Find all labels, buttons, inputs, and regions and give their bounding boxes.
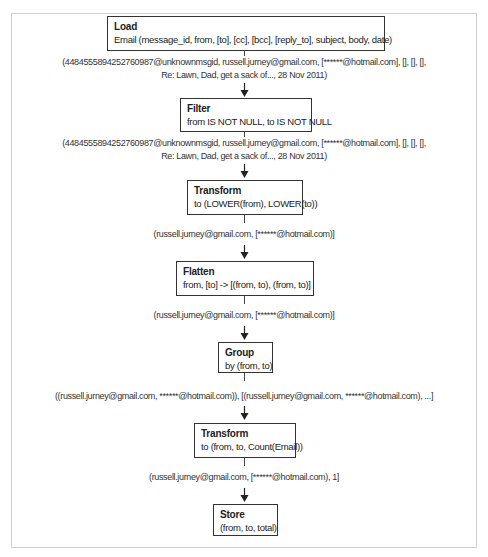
node-group: Group by (from, to) (218, 342, 273, 373)
edge-label: (russell.jurney@gmail.com, [******@hotma… (0, 228, 488, 241)
node-transform-lower: Transform to (LOWER(from), LOWER(to)) (187, 180, 303, 215)
arrow-down-icon (240, 83, 249, 98)
edge-label: Re: Lawn, Dad, get a sack of..., 28 Nov … (0, 150, 488, 163)
node-title: Load (114, 20, 379, 33)
arrow-down-icon (240, 406, 249, 421)
node-flatten: Flatten from, [to] -> [(from, to), (from… (176, 261, 314, 296)
node-title: Flatten (183, 265, 308, 278)
edge-label: Re: Lawn, Dad, get a sack of..., 28 Nov … (0, 69, 488, 82)
node-transform-count: Transform to (from, to, Count(Email)) (194, 423, 296, 458)
node-body: from, [to] -> [(from, to), (from, to)] (183, 278, 308, 292)
arrow-down-icon (240, 164, 249, 179)
node-body: by (from, to) (225, 359, 267, 373)
edge-label: (448455589425276098​7@unknownmsgid, russ… (0, 56, 488, 69)
edge-label: ((russell.jurney@gmail.com, ******@hotma… (0, 390, 488, 403)
node-body: from IS NOT NULL, to IS NOT NULL (187, 115, 306, 129)
connector-line (244, 296, 245, 304)
node-load: Load Email (message_id, from, [to], [cc]… (107, 16, 385, 51)
node-store: Store (from, to, total) (213, 504, 278, 536)
connector-line (244, 373, 245, 381)
node-body: Email (message_id, from, [to], [cc], [bc… (114, 33, 379, 47)
node-title: Transform (194, 184, 297, 197)
node-title: Store (220, 508, 272, 521)
connector-line (244, 458, 245, 466)
arrow-down-icon (240, 488, 249, 503)
arrow-down-icon (240, 326, 249, 341)
node-body: to (LOWER(from), LOWER(to)) (194, 197, 297, 211)
arrow-down-icon (240, 245, 249, 260)
node-title: Group (225, 346, 267, 359)
edge-label: (448455589425276098​7@unknownmsgid, russ… (0, 137, 488, 150)
node-body: to (from, to, Count(Email)) (201, 440, 290, 454)
edge-label: (russell.jurney@gmail.com, [******@hotma… (0, 309, 488, 322)
node-title: Filter (187, 102, 306, 115)
node-body: (from, to, total) (220, 521, 272, 535)
edge-label: (russell.jurney@gmail.com, [******@hotma… (0, 471, 488, 484)
connector-line (244, 215, 245, 223)
node-title: Transform (201, 427, 290, 440)
node-filter: Filter from IS NOT NULL, to IS NOT NULL (180, 98, 312, 132)
